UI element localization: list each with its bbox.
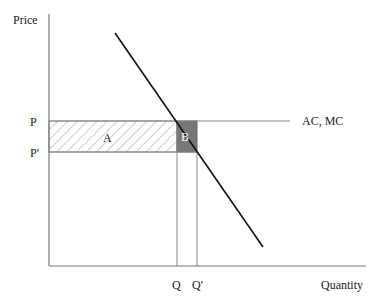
price-label-p-prime: P' <box>30 146 39 160</box>
cost-line-label: AC, MC <box>302 114 343 128</box>
y-axis-label: Price <box>13 13 38 27</box>
quantity-label-q: Q <box>172 278 181 292</box>
price-label-p: P <box>30 115 37 129</box>
area-b-label: B <box>181 130 189 144</box>
area-a <box>49 121 177 152</box>
price-quantity-diagram: Price Quantity P P' Q Q' AC, MC A B <box>0 0 381 307</box>
area-a-label: A <box>103 131 112 145</box>
quantity-label-q-prime: Q' <box>192 278 203 292</box>
x-axis-label: Quantity <box>321 278 363 292</box>
